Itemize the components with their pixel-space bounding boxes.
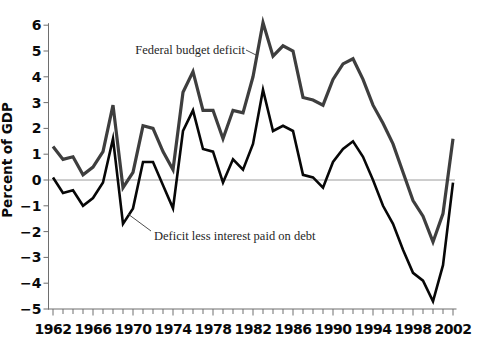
- x-tick-label: 1978: [195, 321, 232, 337]
- y-tick-label: −3: [20, 249, 41, 265]
- chart-canvas: 6543210−1−2−3−4−519621966197019741978198…: [0, 0, 479, 346]
- y-tick-label: 0: [32, 172, 42, 188]
- y-tick-label: 5: [32, 43, 42, 59]
- y-axis-title: Percent of GDP: [0, 102, 15, 218]
- x-tick-label: 1962: [35, 321, 72, 337]
- x-tick-label: 1998: [395, 321, 432, 337]
- y-tick-label: −5: [20, 301, 41, 317]
- x-tick-label: 1990: [315, 321, 353, 337]
- annotation-leader-federal-budget-deficit: [246, 50, 256, 55]
- annotation-deficit-less-interest: Deficit less interest paid on debt: [154, 229, 316, 243]
- y-tick-label: 6: [32, 17, 42, 33]
- y-tick-label: 2: [32, 120, 42, 136]
- x-tick-label: 1966: [75, 321, 112, 337]
- x-tick-label: 2002: [435, 321, 472, 337]
- chart-generated-layer: 6543210−1−2−3−4−519621966197019741978198…: [20, 17, 471, 337]
- x-tick-label: 1974: [155, 321, 193, 337]
- x-tick-label: 1982: [235, 321, 272, 337]
- annotation-leader-deficit-less-interest: [128, 214, 151, 231]
- y-tick-label: −4: [20, 275, 42, 291]
- y-tick-label: −1: [20, 198, 41, 214]
- y-tick-label: 3: [32, 95, 42, 111]
- x-tick-label: 1970: [115, 321, 153, 337]
- x-tick-label: 1994: [355, 321, 393, 337]
- series-line-deficit-less-interest: [53, 90, 453, 302]
- y-tick-label: 1: [32, 146, 42, 162]
- y-tick-label: 4: [32, 69, 42, 85]
- x-tick-label: 1986: [275, 321, 312, 337]
- y-tick-label: −2: [20, 224, 41, 240]
- deficit-chart: 6543210−1−2−3−4−519621966197019741978198…: [0, 0, 479, 346]
- series-line-federal-budget-deficit: [53, 23, 453, 242]
- annotation-federal-budget-deficit: Federal budget deficit: [135, 43, 245, 57]
